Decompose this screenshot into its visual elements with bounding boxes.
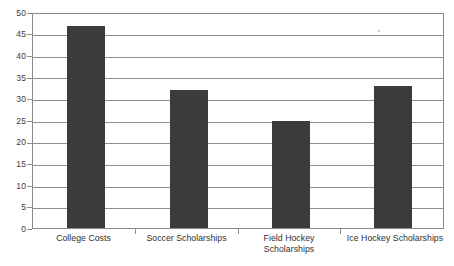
bar-chart: 50 45 40 35 30 25 20 15 10 5 0 bbox=[0, 0, 454, 266]
y-axis-tick-label: 0 bbox=[0, 225, 26, 234]
plot-area bbox=[32, 13, 444, 229]
y-axis-tick-label: 50 bbox=[0, 9, 26, 18]
y-axis-tick-label: 40 bbox=[0, 52, 26, 61]
bar-college-costs bbox=[67, 26, 105, 228]
bar-soccer-scholarships bbox=[170, 90, 208, 228]
y-axis-tick-label: 20 bbox=[0, 138, 26, 147]
x-axis-label-ice-hockey-scholarships: Ice Hockey Scholarships bbox=[337, 233, 453, 244]
y-axis-tick-label: 35 bbox=[0, 74, 26, 83]
y-axis-tick-mark bbox=[27, 229, 32, 230]
y-axis-tick-label: 5 bbox=[0, 203, 26, 212]
x-axis-label-college-costs: College Costs bbox=[32, 233, 135, 244]
x-axis-label-soccer-scholarships: Soccer Scholarships bbox=[135, 233, 238, 244]
y-axis-tick-label: 30 bbox=[0, 95, 26, 104]
scan-artifact bbox=[378, 30, 380, 32]
x-axis-tick-mark bbox=[238, 229, 239, 234]
y-axis-tick-label: 10 bbox=[0, 182, 26, 191]
x-axis-label-field-hockey-scholarships: Field Hockey Scholarships bbox=[243, 233, 335, 255]
y-axis-tick-label: 45 bbox=[0, 30, 26, 39]
bar-field-hockey-scholarships bbox=[272, 121, 310, 228]
bar-ice-hockey-scholarships bbox=[374, 86, 412, 228]
y-axis-tick-label: 25 bbox=[0, 117, 26, 126]
y-axis-tick-label: 15 bbox=[0, 160, 26, 169]
